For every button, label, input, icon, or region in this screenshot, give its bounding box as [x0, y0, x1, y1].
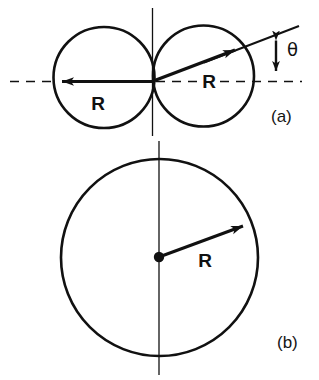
- panel-b: R (b): [61, 141, 298, 375]
- panel-a-caption: (a): [271, 107, 292, 126]
- left-radius-label: R: [91, 93, 105, 114]
- radius-label-b: R: [198, 250, 212, 271]
- figure-svg: θ R R R (a) R (b): [0, 0, 319, 380]
- panel-b-caption: (b): [277, 333, 298, 352]
- right-radius-label-text: R: [202, 71, 216, 92]
- center-dot: [154, 252, 164, 262]
- figure-container: θ R R R (a) R (b): [0, 0, 319, 380]
- theta-label: θ: [287, 39, 298, 60]
- panel-a: θ R R R (a): [10, 8, 302, 136]
